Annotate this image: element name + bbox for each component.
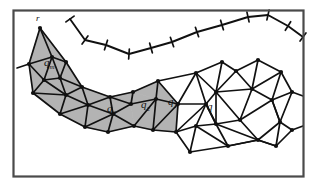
mesh-vertex — [64, 60, 68, 64]
mesh-vertex — [194, 124, 198, 128]
mesh-vertex — [156, 79, 160, 83]
mesh-diagram-canvas: rqmq3q2q1q — [0, 0, 316, 188]
mesh-vertex — [38, 26, 42, 30]
mesh-vertex — [83, 125, 87, 129]
label-q2-subscript: 2 — [147, 105, 151, 113]
label-q3-subscript: 3 — [112, 109, 117, 117]
figure-root: rqmq3q2q1q — [0, 0, 316, 188]
mesh-vertex — [106, 130, 110, 134]
mesh-vertex — [108, 95, 112, 99]
label-q1-subscript: 1 — [174, 102, 178, 110]
mesh-vertex — [129, 102, 133, 106]
mesh-vertex — [214, 122, 218, 126]
mesh-vertex — [86, 103, 90, 107]
mesh-vertex — [256, 138, 260, 142]
mesh-vertex — [256, 58, 260, 62]
mesh-vertex — [270, 98, 274, 102]
mesh-vertex — [132, 124, 136, 128]
mesh-vertex — [250, 87, 254, 91]
mesh-vertex — [154, 97, 158, 101]
mesh-vertex — [50, 55, 54, 59]
mesh-vertex — [220, 60, 224, 64]
mesh-vertex — [226, 144, 230, 148]
mesh-vertex — [80, 85, 84, 89]
mesh-vertex — [188, 150, 192, 154]
label-r: r — [36, 13, 40, 23]
label-q: q — [207, 100, 213, 112]
mesh-vertex — [42, 78, 46, 82]
mesh-vertex — [58, 76, 62, 80]
mesh-vertex — [290, 90, 294, 94]
mesh-vertex — [194, 71, 198, 75]
mesh-vertex — [238, 118, 242, 122]
mesh-vertex — [278, 120, 282, 124]
mesh-vertex — [64, 93, 68, 97]
mesh-vertex — [174, 130, 178, 134]
mesh-vertex — [234, 69, 238, 73]
mesh-vertex — [131, 90, 135, 94]
polyline-vertex-tick — [129, 49, 130, 59]
mesh-vertex — [214, 90, 218, 94]
mesh-vertex — [58, 112, 62, 116]
mesh-vertex — [27, 62, 31, 66]
mesh-vertex — [151, 128, 155, 132]
mesh-vertex — [290, 128, 294, 132]
mesh-vertex — [279, 70, 283, 74]
mesh-vertex — [274, 144, 278, 148]
label-qm-subscript: m — [50, 63, 55, 71]
mesh-vertex — [31, 91, 35, 95]
